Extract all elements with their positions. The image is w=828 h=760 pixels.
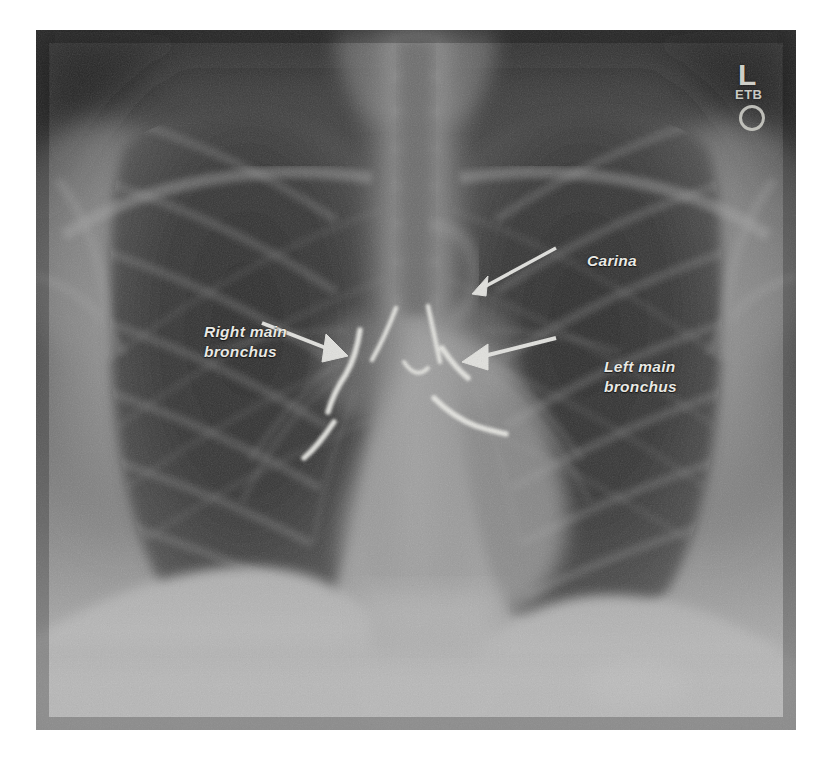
- radiograph-canvas: [36, 30, 796, 730]
- chest-radiograph-figure: Right main bronchus Carina Left main bro…: [36, 30, 796, 730]
- xray-page: Right main bronchus Carina Left main bro…: [0, 0, 828, 760]
- film-grain-texture: [36, 30, 796, 730]
- radiograph-content: [36, 30, 796, 730]
